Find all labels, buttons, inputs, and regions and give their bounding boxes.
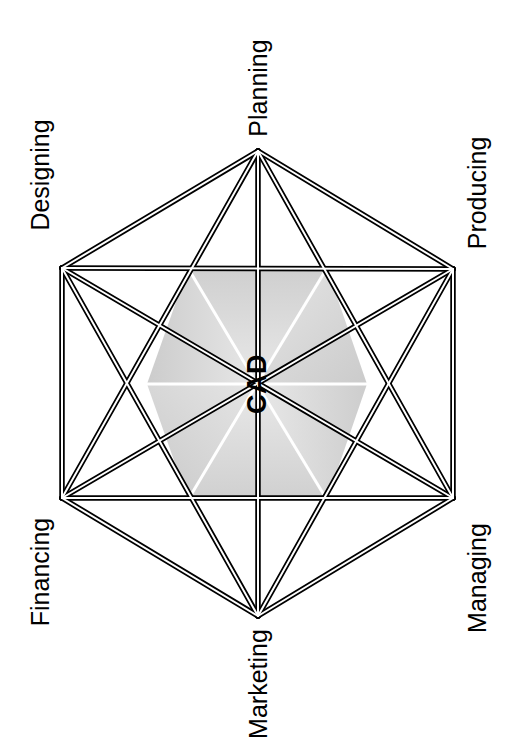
network-edge-core — [62, 268, 453, 269]
network-edge-core — [258, 498, 453, 616]
node-label-managing: Managing — [465, 523, 490, 633]
center-label-cad: CAD — [244, 354, 271, 414]
network-edge-core — [258, 151, 453, 269]
network-edge-core — [62, 151, 258, 268]
node-label-financing: Financing — [28, 518, 53, 626]
node-label-producing: Producing — [465, 137, 490, 250]
node-label-planning: Planning — [246, 39, 271, 136]
node-label-marketing: Marketing — [246, 629, 271, 739]
network-edge-core — [62, 498, 258, 616]
diagram-canvas: Planning Producing Managing Marketing Fi… — [0, 0, 521, 742]
node-label-designing: Designing — [28, 119, 53, 230]
